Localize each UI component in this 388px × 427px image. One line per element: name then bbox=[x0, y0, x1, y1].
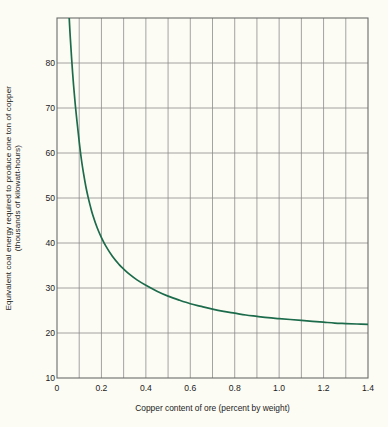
y-tick-label: 20 bbox=[33, 328, 55, 338]
x-tick-label: 0.8 bbox=[229, 383, 241, 393]
chart-figure: Equivalent coal energy required to produ… bbox=[0, 0, 388, 427]
x-tick-label: 0.6 bbox=[184, 383, 196, 393]
x-tick-label: 0.2 bbox=[95, 383, 107, 393]
x-tick-label: 1.2 bbox=[318, 383, 330, 393]
y-tick-label: 60 bbox=[33, 148, 55, 158]
y-tick-label: 30 bbox=[33, 283, 55, 293]
x-axis-title: Copper content of ore (percent by weight… bbox=[57, 403, 368, 413]
y-axis-title-line1: Equivalent coal energy required to produ… bbox=[5, 86, 13, 310]
y-axis-title-line2: (thousands of kilowatt-hours) bbox=[14, 145, 22, 251]
y-tick-label: 80 bbox=[33, 58, 55, 68]
x-tick-label: 0 bbox=[55, 383, 60, 393]
x-tick-label: 1.0 bbox=[273, 383, 285, 393]
y-axis-tick-labels: 10 20 30 40 50 60 70 80 bbox=[31, 0, 55, 427]
x-tick-label: 0.4 bbox=[140, 383, 152, 393]
y-tick-label: 50 bbox=[33, 193, 55, 203]
y-tick-label: 70 bbox=[33, 103, 55, 113]
plot-area bbox=[0, 0, 388, 427]
x-tick-label: 1.4 bbox=[362, 383, 374, 393]
y-tick-label: 10 bbox=[33, 373, 55, 383]
y-tick-label: 40 bbox=[33, 238, 55, 248]
